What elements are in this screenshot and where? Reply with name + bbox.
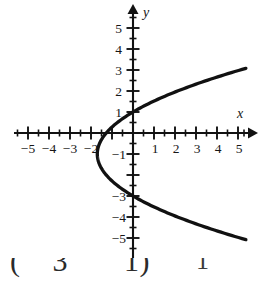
y-tick-label--1: −1 bbox=[112, 147, 126, 162]
x-tick-label--4: −4 bbox=[42, 141, 57, 156]
x-axis-arrow-icon bbox=[248, 128, 258, 139]
x-tick-label--5: −5 bbox=[21, 141, 36, 156]
y-tick-label-5: 5 bbox=[115, 21, 122, 36]
x-axis-label: x bbox=[236, 106, 244, 121]
x-tick-label-1: 1 bbox=[152, 141, 159, 156]
x-tick-label-4: 4 bbox=[215, 141, 222, 156]
coordinate-plane-svg: −5 −4 −3 −2 1 2 3 4 5 5 4 3 2 1 −1 −3 −4… bbox=[0, 0, 262, 284]
y-tick-label-2: 2 bbox=[115, 84, 122, 99]
y-tick-label-1: 1 bbox=[115, 105, 122, 120]
x-tick-label-5: 5 bbox=[236, 141, 243, 156]
y-tick-label-4: 4 bbox=[115, 42, 122, 57]
x-tick-label--3: −3 bbox=[63, 141, 78, 156]
y-tick-label-3: 3 bbox=[115, 63, 122, 78]
y-axis-label: y bbox=[141, 5, 150, 20]
x-tick-label-3: 3 bbox=[194, 141, 201, 156]
y-tick-label--4: −4 bbox=[112, 210, 127, 225]
y-tick-label--5: −5 bbox=[112, 231, 127, 246]
graph-figure: −5 −4 −3 −2 1 2 3 4 5 5 4 3 2 1 −1 −3 −4… bbox=[0, 0, 262, 284]
x-tick-label-2: 2 bbox=[173, 141, 180, 156]
y-axis-arrow-icon bbox=[128, 4, 139, 14]
